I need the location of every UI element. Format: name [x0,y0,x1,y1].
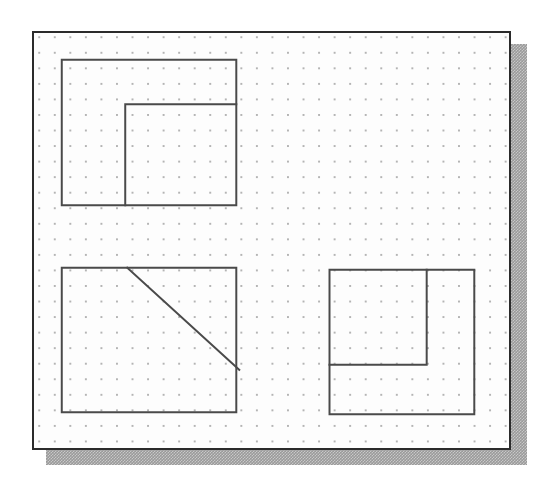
figure-bottom-right[interactable] [330,270,475,415]
outer-rectangle[interactable] [330,270,475,415]
dot-grid-drawing-canvas[interactable] [32,31,511,450]
figure-bottom-left[interactable] [62,268,240,413]
inner-corner-line[interactable] [330,270,427,365]
outer-rectangle[interactable] [62,60,237,206]
screenshot-root [0,0,544,483]
outer-rectangle[interactable] [62,268,237,413]
diagonal-line[interactable] [127,268,239,370]
inner-corner-line[interactable] [125,104,236,205]
figure-top-left[interactable] [62,60,237,206]
figures-layer [34,33,509,448]
